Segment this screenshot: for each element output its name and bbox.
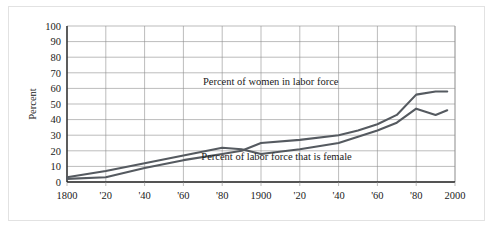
x-tick-label: '20 [294, 190, 306, 201]
line-chart-svg: 1800'20'40'60'801900'20'40'60'802000 010… [0, 0, 493, 227]
x-tick-label: 1800 [57, 190, 78, 201]
x-tick-label: '80 [216, 190, 228, 201]
x-tick-label: '80 [410, 190, 422, 201]
y-tick-label: 90 [51, 36, 62, 47]
figure-container: 1800'20'40'60'801900'20'40'60'802000 010… [0, 0, 493, 227]
y-tick-label: 20 [51, 146, 62, 157]
y-tick-label: 70 [51, 68, 62, 79]
x-tick-label: '20 [100, 190, 112, 201]
y-tick-labels-group: 0102030405060708090100 [45, 21, 61, 188]
x-tick-label: '40 [332, 190, 344, 201]
y-tick-label: 10 [51, 161, 62, 172]
x-tick-label: '40 [138, 190, 150, 201]
x-tick-labels-group: 1800'20'40'60'801900'20'40'60'802000 [57, 190, 466, 201]
y-tick-label: 0 [56, 177, 61, 188]
series-annotations-group: Percent of women in labor forcePercent o… [201, 76, 352, 162]
y-tick-label: 40 [51, 114, 62, 125]
x-tick-label: 2000 [445, 190, 466, 201]
y-tick-label: 60 [51, 83, 62, 94]
x-tick-label: '60 [371, 190, 383, 201]
y-tick-label: 80 [51, 52, 62, 63]
chart-plot-area: 1800'20'40'60'801900'20'40'60'802000 010… [0, 0, 493, 227]
y-tick-label: 30 [51, 130, 62, 141]
x-tick-label: '60 [177, 190, 189, 201]
series-annotation-label: Percent of women in labor force [203, 76, 339, 87]
y-tick-label: 100 [45, 21, 61, 32]
y-axis-title: Percent [27, 88, 38, 120]
series-annotation-label: Percent of labor force that is female [201, 151, 352, 162]
y-tick-label: 50 [51, 99, 62, 110]
x-tick-label: 1900 [251, 190, 272, 201]
